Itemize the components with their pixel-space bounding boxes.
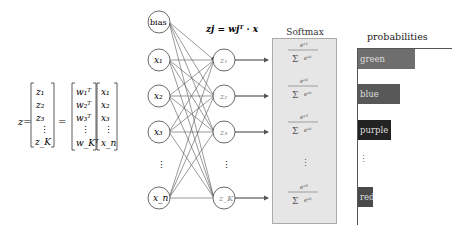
bar-blue: blue bbox=[358, 84, 400, 104]
bar-red-label: red bbox=[360, 192, 373, 202]
w-entry-dots: ⋮ bbox=[81, 125, 90, 135]
bar-blue-label: blue bbox=[360, 89, 379, 99]
svg-text:Σ: Σ bbox=[292, 196, 298, 206]
node-z1-label: z₁ bbox=[219, 56, 227, 65]
bar-green: green bbox=[358, 49, 415, 69]
softmax-entry-k: eᶻᴷ Σeᶻᵏ bbox=[288, 183, 318, 206]
probabilities-title: probabilities bbox=[367, 31, 428, 42]
node-zk-label: z_K bbox=[218, 194, 234, 203]
svg-text:eᶻ¹: eᶻ¹ bbox=[300, 41, 308, 48]
svg-text:eᶻᴷ: eᶻᴷ bbox=[300, 183, 309, 190]
node-x1-label: x₁ bbox=[154, 55, 163, 65]
svg-text:Σ: Σ bbox=[292, 126, 298, 136]
w-entry-2: w₂ᵀ bbox=[76, 100, 92, 110]
z-entry-2: z₂ bbox=[35, 100, 45, 110]
z-entry-1: z₁ bbox=[35, 87, 44, 97]
softmax-svg: eᶻ¹ Σeᶻᵏ eᶻ² Σeᶻᵏ eᶻ³ Σeᶻᵏ ⋮ eᶻᴷ Σeᶻᵏ bbox=[270, 0, 340, 235]
z-entry-3: z₃ bbox=[35, 113, 45, 123]
svg-text:eᶻᵏ: eᶻᵏ bbox=[304, 90, 313, 97]
probabilities-panel: probabilities green blue purple ⋮ red bbox=[340, 0, 465, 235]
svg-text:eᶻᵏ: eᶻᵏ bbox=[304, 196, 313, 203]
x-entry-n: x_n bbox=[101, 138, 117, 149]
svg-text:Σ: Σ bbox=[292, 90, 298, 100]
w-entry-3: w₃ᵀ bbox=[76, 113, 92, 123]
softmax-entry-3: eᶻ³ Σeᶻᵏ bbox=[288, 113, 318, 136]
equation-svg: z= z₁ z₂ z₃ ⋮ z_K = w₁ᵀ w₂ᵀ w₃ᵀ ⋮ w_Kᵀ x… bbox=[0, 0, 140, 235]
bar-purple: purple bbox=[358, 120, 391, 140]
bar-purple-label: purple bbox=[360, 125, 388, 135]
x-entry-2: x₂ bbox=[101, 100, 110, 110]
equation-lhs: z= bbox=[17, 116, 32, 127]
input-dots: ⋮ bbox=[157, 160, 166, 170]
svg-text:eᶻᵏ: eᶻᵏ bbox=[304, 126, 313, 133]
svg-text:eᶻᵏ: eᶻᵏ bbox=[304, 54, 313, 61]
softmax-entry-2: eᶻ² Σeᶻᵏ bbox=[288, 77, 318, 100]
network-formula: zj = wjᵀ · x bbox=[205, 24, 259, 34]
connection-lines bbox=[169, 22, 214, 198]
bar-red: red bbox=[358, 187, 373, 207]
equals-sign: = bbox=[58, 116, 66, 127]
x-entry-1: x₁ bbox=[101, 87, 110, 97]
network-diagram: bias x₁ x₂ x₃ ⋮ x_n z₁ z₂ z₃ ⋮ z_K zj = … bbox=[140, 0, 270, 235]
svg-text:eᶻ²: eᶻ² bbox=[300, 77, 309, 84]
node-x3-label: x₃ bbox=[154, 127, 163, 137]
softmax-block: Softmax eᶻ¹ Σeᶻᵏ eᶻ² Σeᶻᵏ eᶻ³ Σeᶻᵏ ⋮ eᶻᴷ bbox=[270, 0, 340, 235]
equation-block: z= z₁ z₂ z₃ ⋮ z_K = w₁ᵀ w₂ᵀ w₃ᵀ ⋮ w_Kᵀ x… bbox=[0, 0, 140, 235]
svg-text:eᶻ³: eᶻ³ bbox=[300, 113, 309, 120]
bar-green-label: green bbox=[360, 54, 385, 64]
z-entry-k: z_K bbox=[34, 137, 52, 148]
network-svg: bias x₁ x₂ x₃ ⋮ x_n z₁ z₂ z₃ ⋮ z_K zj = … bbox=[140, 0, 270, 235]
node-x2-label: x₂ bbox=[154, 91, 163, 101]
node-z2-label: z₂ bbox=[219, 92, 227, 101]
w-entry-k: w_Kᵀ bbox=[76, 138, 100, 149]
output-dots: ⋮ bbox=[222, 160, 231, 170]
bars-dots: ⋮ bbox=[359, 154, 368, 164]
x-entry-dots: ⋮ bbox=[104, 125, 113, 135]
svg-text:Σ: Σ bbox=[292, 54, 298, 64]
node-xn-label: x_n bbox=[153, 193, 169, 204]
z-entry-dots: ⋮ bbox=[40, 125, 49, 135]
x-entry-3: x₃ bbox=[101, 113, 110, 123]
softmax-entry-1: eᶻ¹ Σeᶻᵏ bbox=[288, 41, 318, 64]
node-z3-label: z₃ bbox=[219, 128, 227, 137]
node-bias-label: bias bbox=[150, 18, 167, 27]
w-entry-1: w₁ᵀ bbox=[76, 87, 92, 97]
softmax-dots: ⋮ bbox=[301, 158, 310, 168]
